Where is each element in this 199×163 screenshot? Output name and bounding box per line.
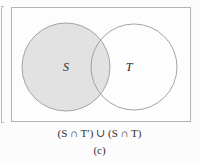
set-t-unshaded-fill: [134, 24, 177, 110]
adjacent-figure-frame-fragment: [1, 6, 4, 123]
caption-set-expression: (S ∩ T′) ∪ (S ∩ T): [0, 127, 199, 139]
set-label-t: T: [126, 61, 133, 73]
set-label-s: S: [63, 61, 69, 73]
venn-circles-graphic: [11, 7, 191, 122]
venn-diagram-figure: S T (S ∩ T′) ∪ (S ∩ T) (c): [0, 0, 199, 163]
caption-subfigure-index: (c): [0, 144, 199, 156]
